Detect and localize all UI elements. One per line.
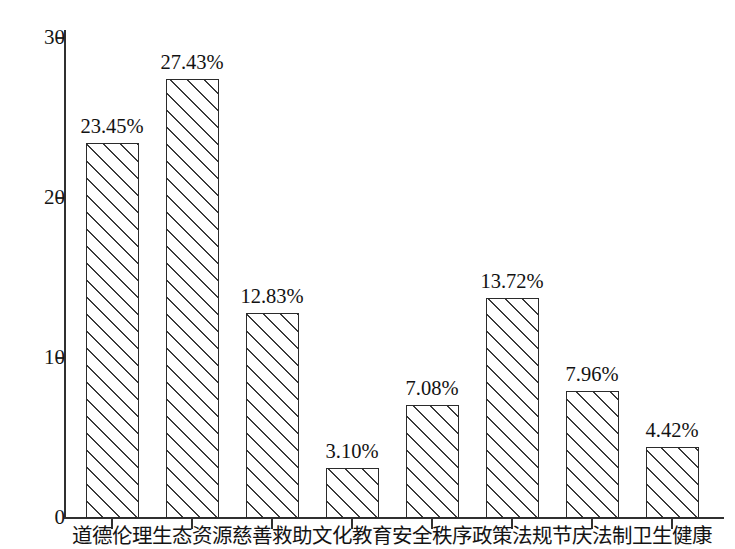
bar-value-label-2: 12.83% — [212, 286, 332, 307]
bar-chart: 30 20 10 0 23.45%道德伦理27.43%生态资源12.83%慈善救… — [0, 0, 735, 549]
bar-value-label-0: 23.45% — [52, 116, 172, 137]
bar-value-label-5: 13.72% — [452, 271, 572, 292]
y-axis-line — [64, 30, 66, 519]
bar-0 — [86, 143, 139, 518]
bar-3 — [326, 468, 379, 518]
bar-4 — [406, 405, 459, 518]
bar-2 — [246, 313, 299, 518]
y-tick-label-30: 30 — [19, 27, 65, 48]
bar-value-label-4: 7.08% — [372, 378, 492, 399]
bar-7 — [646, 447, 699, 518]
bar-value-label-3: 3.10% — [292, 441, 412, 462]
category-label-7: 卫生健康 — [612, 524, 732, 548]
y-tick-label-20: 20 — [19, 187, 65, 208]
bar-1 — [166, 79, 219, 518]
y-tick-label-10: 10 — [19, 347, 65, 368]
bar-5 — [486, 298, 539, 518]
bar-value-label-6: 7.96% — [532, 364, 652, 385]
bar-value-label-1: 27.43% — [132, 52, 252, 73]
bar-6 — [566, 391, 619, 518]
bar-value-label-7: 4.42% — [612, 420, 732, 441]
x-axis-line — [64, 517, 724, 519]
